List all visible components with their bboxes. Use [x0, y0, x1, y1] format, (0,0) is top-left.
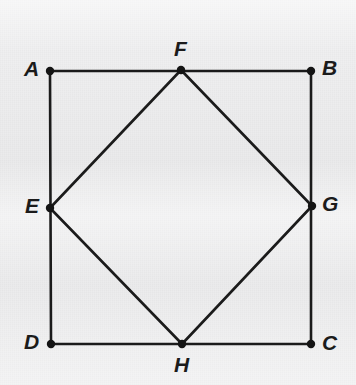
vertex-dot-h: [178, 340, 186, 348]
vertex-label-a: A: [24, 58, 39, 79]
vertex-label-h: H: [174, 354, 189, 375]
vertex-dot-g: [308, 202, 316, 210]
vertex-label-e: E: [25, 195, 39, 216]
vertex-label-g: G: [322, 193, 338, 214]
segment-EF: [50, 70, 181, 208]
vertex-dot-a: [46, 67, 54, 75]
segment-GH: [182, 206, 312, 344]
vertices-layer: [46, 66, 316, 348]
segment-FG: [181, 70, 312, 206]
vertex-label-d: D: [24, 331, 39, 352]
vertex-dot-e: [46, 204, 54, 212]
vertex-dot-f: [177, 66, 185, 74]
geometry-figure: ABCDEFGH: [0, 0, 356, 385]
vertex-label-c: C: [322, 332, 337, 353]
vertex-dot-d: [47, 340, 55, 348]
vertex-label-b: B: [322, 57, 337, 78]
segments-layer: [50, 70, 312, 344]
segment-HE: [50, 208, 182, 344]
vertex-dot-c: [307, 340, 315, 348]
vertex-label-f: F: [174, 38, 187, 59]
vertex-dot-b: [307, 67, 315, 75]
